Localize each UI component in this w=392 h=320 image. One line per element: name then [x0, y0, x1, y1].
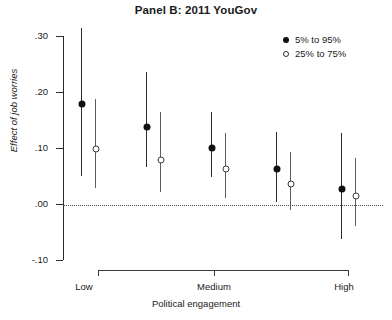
y-tick-label: .20 [0, 86, 48, 97]
x-axis-cap-right [348, 270, 349, 276]
x-axis-bracket [98, 270, 348, 271]
legend-label: 5% to 95% [295, 33, 341, 47]
y-tick [56, 36, 63, 37]
chart-panel: Panel B: 2011 YouGov Effect of job worri… [0, 0, 392, 320]
x-tick-label: Low [75, 281, 92, 292]
x-tick [214, 270, 215, 276]
data-point-open [352, 193, 359, 200]
error-bar [95, 99, 96, 189]
y-tick [56, 92, 63, 93]
open-circle-icon [283, 51, 289, 57]
x-tick-label: High [334, 281, 354, 292]
y-tick [56, 204, 63, 205]
y-tick-label: .00 [0, 198, 48, 209]
data-point-filled [273, 166, 280, 173]
x-tick-label: Medium [197, 281, 231, 292]
data-point-open [222, 166, 229, 173]
error-bar [160, 112, 161, 192]
data-point-open [92, 146, 99, 153]
legend-label: 25% to 75% [295, 47, 346, 61]
data-point-filled [338, 186, 345, 193]
data-point-open [157, 157, 164, 164]
error-bar [146, 72, 147, 167]
y-tick [56, 260, 63, 261]
y-tick-label: .30 [0, 30, 48, 41]
x-axis-title: Political engagement [0, 298, 392, 309]
data-point-filled [143, 123, 150, 130]
y-tick [56, 148, 63, 149]
x-axis-cap-left [98, 270, 99, 276]
chart-legend: 5% to 95%25% to 75% [283, 33, 346, 61]
filled-circle-icon [283, 37, 289, 43]
chart-title: Panel B: 2011 YouGov [0, 4, 392, 16]
y-tick-label: -.10 [0, 254, 48, 265]
y-tick-label: .10 [0, 142, 48, 153]
legend-item: 25% to 75% [283, 47, 346, 61]
plot-area [63, 27, 383, 261]
legend-item: 5% to 95% [283, 33, 346, 47]
data-point-filled [78, 101, 85, 108]
data-point-filled [208, 145, 215, 152]
data-point-open [287, 181, 294, 188]
